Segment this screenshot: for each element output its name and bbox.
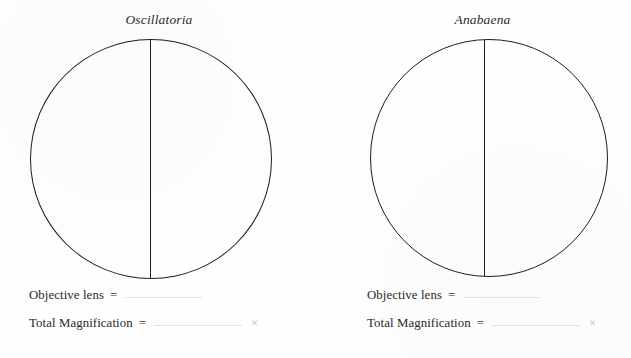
total-magnification-input-blank[interactable]: [492, 316, 580, 326]
specimen-name-label: Anabaena: [336, 12, 629, 28]
answer-block: Objective lens = Total Magnification = ×: [367, 288, 629, 344]
objective-lens-row: Objective lens =: [29, 288, 291, 316]
objective-lens-input-blank[interactable]: [125, 288, 202, 298]
field-of-view-divider-line: [484, 40, 485, 276]
objective-lens-label: Objective lens: [29, 288, 104, 303]
total-magnification-label: Total Magnification: [29, 316, 133, 331]
specimen-panel-oscillatoria: Oscillatoria Objective lens = Total Magn…: [0, 0, 320, 358]
total-magnification-label: Total Magnification: [367, 316, 471, 331]
worksheet-page: Oscillatoria Objective lens = Total Magn…: [0, 0, 631, 358]
multiplication-icon: ×: [251, 317, 258, 330]
total-magnification-row: Total Magnification = ×: [367, 316, 629, 344]
objective-lens-row: Objective lens =: [367, 288, 629, 316]
specimen-panel-anabaena: Anabaena Objective lens = Total Magnific…: [338, 0, 631, 358]
specimen-name-label: Oscillatoria: [0, 12, 319, 28]
total-magnification-equals-sign: =: [139, 316, 146, 331]
field-of-view-divider-line: [150, 40, 151, 278]
answer-block: Objective lens = Total Magnification = ×: [29, 288, 291, 344]
field-of-view-diagram: [370, 39, 608, 277]
objective-lens-input-blank[interactable]: [463, 288, 540, 298]
field-of-view-circle: [370, 39, 608, 277]
objective-lens-equals-sign: =: [110, 288, 117, 303]
total-magnification-row: Total Magnification = ×: [29, 316, 291, 344]
field-of-view-circle: [30, 39, 272, 279]
objective-lens-label: Objective lens: [367, 288, 442, 303]
objective-lens-equals-sign: =: [448, 288, 455, 303]
total-magnification-input-blank[interactable]: [154, 316, 242, 326]
field-of-view-diagram: [30, 39, 272, 279]
total-magnification-equals-sign: =: [477, 316, 484, 331]
multiplication-icon: ×: [589, 317, 596, 330]
